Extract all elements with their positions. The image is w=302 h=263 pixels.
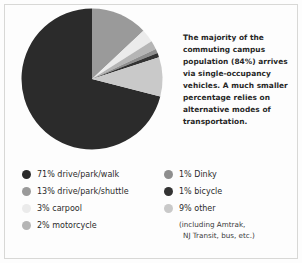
legend-label: 71% drive/park/walk xyxy=(37,168,119,181)
chart-legend: 71% drive/park/walk 13% drive/park/shutt… xyxy=(22,168,294,257)
legend-item-dinky[interactable]: 1% Dinky xyxy=(164,168,302,185)
legend-swatch-icon xyxy=(164,187,173,196)
infographic-panel: The majority of the commuting campus pop… xyxy=(0,0,302,263)
legend-swatch-icon xyxy=(22,170,31,179)
legend-column-right: 1% Dinky 1% bicycle 9% other (including … xyxy=(164,168,302,241)
legend-swatch-icon xyxy=(22,187,31,196)
pie-slice-group xyxy=(22,9,163,150)
legend-other-note-line-2: NJ Transit, bus, etc.) xyxy=(183,230,302,241)
legend-label: 3% carpool xyxy=(37,202,82,215)
legend-item-carpool[interactable]: 3% carpool xyxy=(22,202,172,219)
legend-swatch-icon xyxy=(164,204,173,213)
legend-item-other[interactable]: 9% other xyxy=(164,202,302,219)
pie-chart-svg xyxy=(17,8,167,150)
legend-swatch-icon xyxy=(22,221,31,230)
legend-label: 2% motorcycle xyxy=(37,219,97,232)
legend-label: 9% other xyxy=(179,202,216,215)
legend-label: 1% Dinky xyxy=(179,168,217,181)
legend-item-motorcycle[interactable]: 2% motorcycle xyxy=(22,219,172,236)
legend-label: 1% bicycle xyxy=(179,185,222,198)
legend-item-drive-park-shuttle[interactable]: 13% drive/park/shuttle xyxy=(22,185,172,202)
legend-swatch-icon xyxy=(164,170,173,179)
pie-chart xyxy=(17,8,167,150)
summary-paragraph: The majority of the commuting campus pop… xyxy=(183,32,289,128)
legend-swatch-icon xyxy=(22,204,31,213)
legend-label: 13% drive/park/shuttle xyxy=(37,185,129,198)
legend-column-left: 71% drive/park/walk 13% drive/park/shutt… xyxy=(22,168,172,236)
legend-item-bicycle[interactable]: 1% bicycle xyxy=(164,185,302,202)
legend-item-drive-park-walk[interactable]: 71% drive/park/walk xyxy=(22,168,172,185)
legend-other-note-line-1: (including Amtrak, xyxy=(179,219,302,230)
